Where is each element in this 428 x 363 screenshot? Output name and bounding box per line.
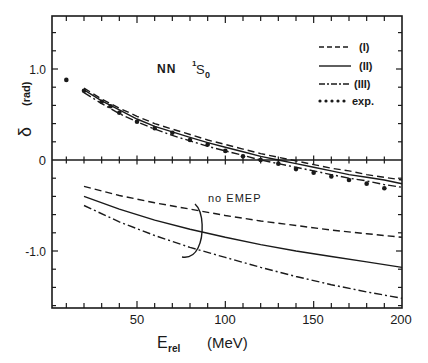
x-axis-symbol: E	[157, 334, 168, 351]
x-tick-label-100: 100	[214, 312, 236, 327]
annotation-no-emep: no EMEP	[208, 192, 261, 204]
annotation-s: S	[196, 62, 205, 77]
series-iii-no-emep	[84, 206, 402, 299]
legend-label-exp: exp.	[352, 95, 374, 107]
phase-shift-chart: 1.0 0 -1.0 50 100 150 200 E rel (MeV) (r…	[0, 0, 428, 363]
x-tick-label-200: 200	[390, 312, 412, 327]
axis-labels: 1.0 0 -1.0 50 100 150 200 E rel (MeV) (r…	[15, 41, 412, 354]
legend-swatch-exp	[318, 99, 345, 102]
series-ii-no-emep	[84, 196, 402, 267]
y-axis-title: (rad)	[20, 81, 32, 106]
data-series	[64, 78, 402, 299]
axis-ticks	[52, 16, 402, 308]
y-tick-label-0: 0	[39, 153, 46, 168]
y-tick-label-minus-1: -1.0	[25, 245, 46, 259]
annotation-nn: NN	[157, 62, 176, 76]
x-tick-label-150: 150	[302, 312, 324, 327]
x-axis-subscript: rel	[168, 343, 180, 354]
y-axis-symbol: δ	[15, 127, 35, 137]
legend: (I) (II) (III) exp.	[318, 41, 374, 107]
y-tick-label-1: 1.0	[29, 63, 46, 77]
x-axis-title: E rel (MeV)	[157, 334, 248, 354]
legend-label-iii: (III)	[354, 78, 371, 90]
legend-label-ii: (II)	[359, 60, 373, 72]
x-axis-unit: (MeV)	[207, 334, 248, 351]
panel-annotation-nn-1s0: NN 1 S 0	[157, 59, 210, 80]
legend-label-i: (I)	[359, 41, 370, 53]
y-axis-unit: (rad)	[20, 81, 32, 106]
annotation-sub: 0	[205, 70, 210, 80]
x-tick-label-50: 50	[130, 312, 144, 327]
series-exp-points	[64, 78, 387, 191]
